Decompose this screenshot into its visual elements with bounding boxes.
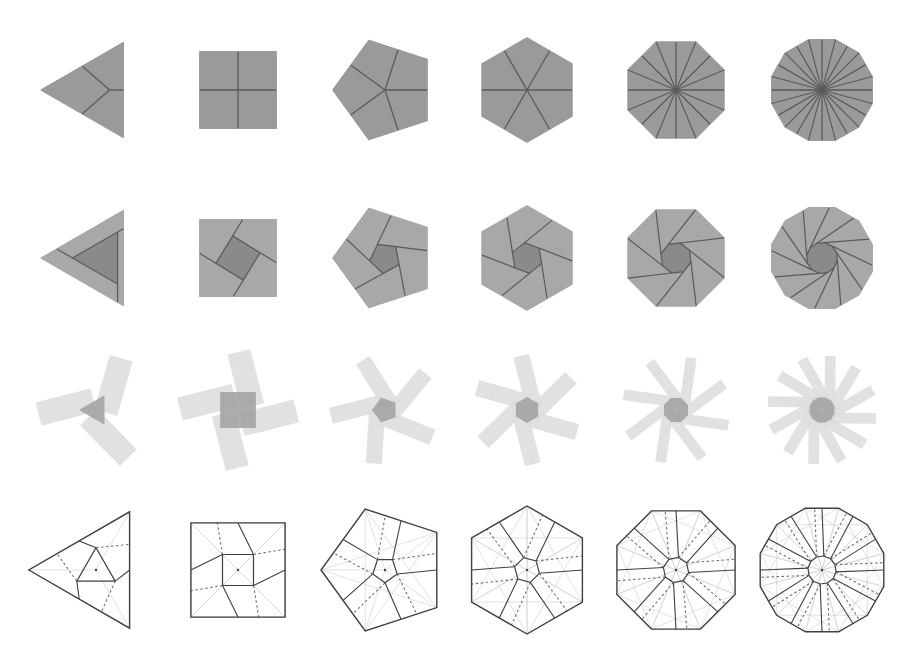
crease-pattern-octagon bbox=[617, 511, 735, 629]
crease-pattern-dodecagon bbox=[760, 508, 884, 632]
crease-pattern-pentagon bbox=[321, 509, 437, 631]
crease-pattern-square bbox=[191, 523, 285, 617]
folded-twist-dodecagon bbox=[772, 208, 872, 308]
folded-radial-dodecagon bbox=[772, 40, 872, 140]
unfolded-flaps-pentagon bbox=[329, 356, 436, 464]
folded-twist-pentagon bbox=[333, 209, 427, 308]
folded-radial-triangle bbox=[41, 43, 123, 138]
folded-radial-hexagon bbox=[482, 38, 572, 142]
folded-twist-triangle bbox=[41, 211, 123, 306]
unfolded-flaps-hexagon bbox=[475, 354, 579, 466]
folded-twist-square bbox=[200, 220, 276, 296]
folded-radial-octagon bbox=[628, 42, 724, 138]
unfolded-flaps-square bbox=[177, 349, 299, 471]
unfolded-flaps-dodecagon bbox=[768, 356, 876, 464]
folded-radial-square bbox=[200, 52, 276, 128]
diagram-canvas bbox=[0, 0, 918, 666]
unfolded-flaps-octagon bbox=[623, 357, 729, 463]
folded-radial-pentagon bbox=[333, 41, 427, 140]
unfolded-flaps-triangle bbox=[36, 355, 137, 466]
polygon-twist-fold-figure bbox=[0, 0, 918, 666]
folded-twist-octagon bbox=[628, 210, 724, 306]
crease-pattern-triangle bbox=[29, 512, 130, 628]
crease-pattern-hexagon bbox=[472, 506, 583, 634]
folded-twist-hexagon bbox=[482, 206, 572, 310]
